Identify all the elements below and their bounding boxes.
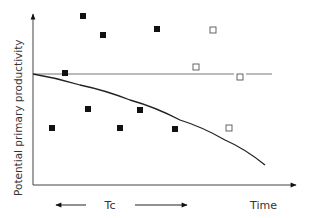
- open-square-point: [226, 125, 232, 131]
- x-axis-label: Time: [249, 199, 277, 212]
- filled-square-point: [100, 32, 106, 38]
- open-square-point: [237, 74, 243, 80]
- filled-square-point: [80, 13, 86, 19]
- filled-square-point: [154, 26, 160, 32]
- y-axis-label: Potential primary productivity: [12, 39, 24, 196]
- tc-label: Tc: [104, 199, 116, 212]
- chart-canvas: Potential primary productivity Tc Time: [0, 0, 313, 218]
- decline-curve: [33, 74, 265, 165]
- filled-square-point: [62, 70, 68, 76]
- open-square-point: [193, 64, 199, 70]
- filled-square-point: [172, 126, 178, 132]
- open-square-point: [210, 27, 216, 33]
- filled-squares-series: [49, 13, 178, 132]
- filled-square-point: [137, 107, 143, 113]
- filled-square-point: [85, 106, 91, 112]
- filled-square-point: [49, 125, 55, 131]
- filled-square-point: [117, 125, 123, 131]
- open-squares-series: [193, 27, 243, 131]
